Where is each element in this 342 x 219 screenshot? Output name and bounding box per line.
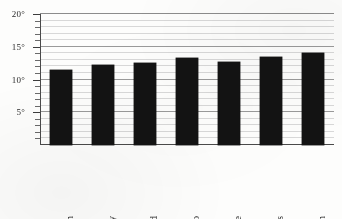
y-axis-tick-label: 20° xyxy=(0,9,25,19)
x-axis-tick-label: Cowes xyxy=(275,216,285,219)
plot-area xyxy=(40,14,334,145)
y-axis-labels: 5°10°15°20° xyxy=(0,0,34,219)
x-axis-tick-label: Derry xyxy=(107,216,117,219)
bar-series xyxy=(40,14,334,145)
bar xyxy=(92,65,114,145)
y-axis-tick-label: 15° xyxy=(0,42,25,52)
bar xyxy=(218,62,240,145)
y-axis-tick-label: 10° xyxy=(0,75,25,85)
x-axis-tick-label: Llandudno xyxy=(191,216,201,219)
bar xyxy=(50,70,72,145)
x-axis-labels: AberdeenDerrySunderlandLlandudnoRosslare… xyxy=(40,146,334,218)
bar xyxy=(134,63,156,145)
bar xyxy=(176,58,198,145)
chart-page: 5°10°15°20° AberdeenDerrySunderlandLland… xyxy=(0,0,342,219)
bar xyxy=(302,53,324,145)
x-axis-tick-label: Falmouth xyxy=(317,216,327,219)
bar xyxy=(260,57,282,145)
x-axis-tick-label: Rosslare xyxy=(233,216,243,219)
y-axis-tick-label: 5° xyxy=(0,107,25,117)
x-axis-tick-label: Aberdeen xyxy=(65,216,75,219)
x-axis-tick-label: Sunderland xyxy=(149,216,159,219)
